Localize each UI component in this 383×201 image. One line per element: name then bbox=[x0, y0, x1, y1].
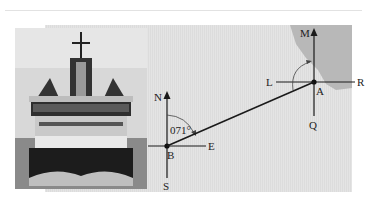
label-b: B bbox=[167, 149, 174, 161]
label-e: E bbox=[208, 140, 215, 152]
bearing-angle-label: 071° bbox=[170, 124, 191, 136]
label-s: S bbox=[163, 180, 169, 192]
label-l: L bbox=[266, 76, 273, 88]
label-q: Q bbox=[309, 119, 317, 131]
label-m: M bbox=[300, 27, 310, 39]
label-a: A bbox=[316, 85, 324, 97]
bearing-diagram: M L R A Q N E B S 071° bbox=[0, 0, 383, 201]
bearing-line bbox=[167, 82, 314, 146]
label-n: N bbox=[154, 91, 162, 103]
label-r: R bbox=[357, 76, 365, 88]
north-arrow-icon-b bbox=[164, 91, 171, 99]
